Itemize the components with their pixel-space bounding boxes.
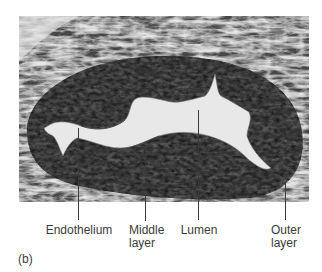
outer-layer-label-line2: layer — [271, 237, 301, 250]
vessel-micrograph-figure: Endothelium Middle layer Lumen Outer lay… — [0, 0, 322, 272]
endothelium-label: Endothelium — [46, 224, 113, 237]
lumen-label: Lumen — [181, 224, 218, 237]
outer-layer-leader-line — [285, 183, 286, 220]
outer-layer-label: Outer layer — [271, 224, 301, 250]
middle-layer-label-line2: layer — [129, 237, 164, 250]
middle-layer-leader-line — [145, 150, 146, 221]
lumen-leader-line — [198, 110, 199, 220]
panel-label: (b) — [18, 252, 33, 266]
micrograph-image — [19, 16, 309, 202]
middle-layer-label: Middle layer — [129, 224, 164, 250]
endothelium-leader-line — [78, 128, 79, 220]
